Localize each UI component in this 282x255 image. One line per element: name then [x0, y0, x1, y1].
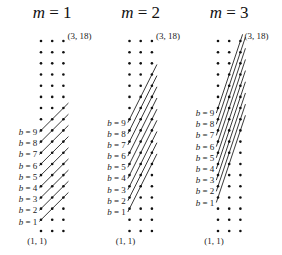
- lattice-point: [139, 96, 142, 99]
- lattice-point: [151, 73, 154, 76]
- lattice-point: [217, 140, 220, 143]
- lattice-point: [51, 230, 54, 233]
- lattice-point: [40, 129, 43, 132]
- lattice-point: [40, 84, 43, 87]
- lattice-point: [62, 163, 65, 166]
- b-label: b = 4: [19, 183, 38, 193]
- top-corner-label: (3, 18): [244, 31, 268, 41]
- lattice-point: [128, 196, 131, 199]
- title-equation: = 3: [222, 3, 249, 22]
- lattice-point: [239, 129, 242, 132]
- lattice-lines-figure: m = 1b = 1b = 2b = 3b = 4b = 5b = 6b = 7…: [0, 0, 282, 255]
- lattice-point: [51, 219, 54, 222]
- b-label: b = 3: [196, 175, 215, 185]
- lattice-point: [239, 151, 242, 154]
- lattice-point: [139, 185, 142, 188]
- lattice-point: [228, 107, 231, 110]
- lattice-point: [62, 151, 65, 154]
- lattice-point: [40, 230, 43, 233]
- lattice-point: [239, 96, 242, 99]
- lattice-point: [62, 219, 65, 222]
- lattice-point: [217, 40, 220, 43]
- lattice-point: [228, 62, 231, 65]
- b-label-value: = 9: [200, 108, 215, 118]
- lattice-point: [139, 62, 142, 65]
- lattice-point: [151, 151, 154, 154]
- b-label-value: = 1: [112, 207, 126, 217]
- b-label-value: = 4: [112, 173, 127, 183]
- lattice-point: [128, 107, 131, 110]
- b-label-value: = 5: [23, 172, 38, 182]
- lattice-point: [51, 151, 54, 154]
- lattice-point: [139, 219, 142, 222]
- bottom-corner-label: (1, 1): [27, 236, 47, 246]
- b-label-value: = 7: [112, 140, 127, 150]
- lattice-point: [62, 230, 65, 233]
- b-label: b = 6: [196, 142, 215, 152]
- lattice-point: [151, 118, 154, 121]
- lattice-point: [128, 163, 131, 166]
- lattice-point: [40, 40, 43, 43]
- b-label-value: = 2: [112, 196, 126, 206]
- b-label-value: = 3: [112, 185, 127, 195]
- title-variable: m: [210, 3, 222, 22]
- lattice-point: [228, 196, 231, 199]
- b-label-value: = 8: [23, 138, 38, 148]
- lattice-point: [239, 62, 242, 65]
- lattice-point: [151, 140, 154, 143]
- lattice-point: [239, 118, 242, 121]
- lattice-point: [40, 174, 43, 177]
- lattice-point: [128, 40, 131, 43]
- lattice-point: [62, 40, 65, 43]
- lattice-point: [239, 163, 242, 166]
- b-label-value: = 2: [23, 205, 37, 215]
- b-label: b = 8: [19, 138, 38, 148]
- b-label-value: = 7: [23, 149, 38, 159]
- b-label: b = 5: [19, 172, 38, 182]
- lattice-point: [128, 151, 131, 154]
- b-label: b = 8: [196, 119, 215, 129]
- b-label-value: = 8: [200, 119, 215, 129]
- lattice-point: [128, 140, 131, 143]
- line-b-7: [128, 87, 157, 145]
- b-label: b = 9: [107, 118, 126, 128]
- lattice-point: [40, 96, 43, 99]
- lattice-point: [128, 118, 131, 121]
- lattice-point: [151, 107, 154, 110]
- lattice-point: [239, 230, 242, 233]
- b-label: b = 9: [196, 108, 215, 118]
- lattice-point: [217, 230, 220, 233]
- lattice-point: [62, 185, 65, 188]
- panel-title: m = 3: [210, 3, 249, 22]
- lattice-point: [228, 73, 231, 76]
- lattice-point: [62, 196, 65, 199]
- b-label-value: = 6: [23, 161, 38, 171]
- lattice-point: [217, 151, 220, 154]
- title-equation: = 2: [134, 3, 161, 22]
- b-label-value: = 3: [23, 194, 38, 204]
- lattice-point: [51, 40, 54, 43]
- lattice-point: [217, 84, 220, 87]
- lattice-point: [217, 107, 220, 110]
- lattice-point: [139, 73, 142, 76]
- lattice-point: [40, 118, 43, 121]
- lattice-point: [239, 219, 242, 222]
- lattice-point: [239, 140, 242, 143]
- lattice-point: [217, 118, 220, 121]
- b-label: b = 9: [19, 127, 38, 137]
- b-label: b = 3: [19, 194, 38, 204]
- b-label-value: = 8: [112, 129, 127, 139]
- lattice-point: [40, 73, 43, 76]
- lattice-point: [239, 174, 242, 177]
- line-b-6: [128, 98, 157, 156]
- title-equation: = 1: [45, 3, 72, 22]
- b-label: b = 5: [196, 153, 215, 163]
- line-b-4: [216, 82, 245, 169]
- lattice-point: [239, 196, 242, 199]
- line-b-4: [128, 120, 157, 178]
- b-label: b = 7: [196, 130, 215, 140]
- b-label: b = 2: [19, 205, 38, 215]
- b-label-value: = 3: [200, 175, 215, 185]
- b-label: b = 7: [107, 140, 126, 150]
- b-label: b = 3: [107, 185, 126, 195]
